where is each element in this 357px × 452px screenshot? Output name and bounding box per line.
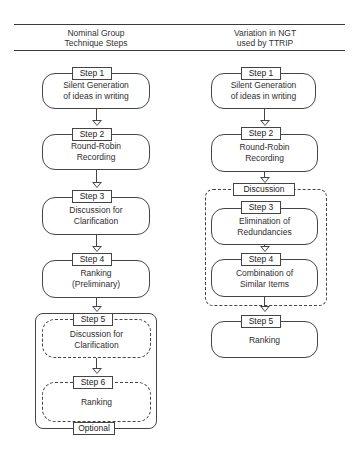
right-step-3-label: Step 3	[241, 201, 281, 214]
right-step-1-label: Step 1	[241, 67, 281, 80]
left-step-1-label: Step 1	[72, 67, 112, 80]
left-step-4-label: Step 4	[72, 253, 112, 266]
discussion-group-label: Discussion	[233, 183, 295, 196]
arrow-down-icon	[260, 109, 270, 127]
left-step-2-label: Step 2	[72, 128, 112, 141]
arrow-down-icon	[92, 358, 102, 376]
arrow-down-icon	[260, 297, 270, 316]
arrow-down-icon	[92, 109, 102, 127]
arrow-down-icon	[92, 235, 102, 253]
optional-group-label: Optional	[73, 422, 115, 435]
right-column-header: Variation in NGT used by TTRIP	[185, 28, 345, 48]
header-top-rule	[14, 24, 345, 25]
right-step-2-label: Step 2	[241, 127, 281, 140]
left-step-6-label: Step 6	[73, 376, 113, 389]
arrow-down-icon	[260, 245, 270, 253]
header-bottom-rule	[14, 50, 345, 51]
arrow-down-icon	[92, 298, 102, 313]
left-step-3-label: Step 3	[72, 190, 112, 203]
arrow-down-icon	[92, 170, 102, 190]
right-step-5-label: Step 5	[241, 315, 281, 328]
left-column-header: Nominal Group Technique Steps	[16, 28, 176, 48]
left-step-5-label: Step 5	[73, 313, 113, 326]
right-step-4-label: Step 4	[241, 253, 281, 266]
